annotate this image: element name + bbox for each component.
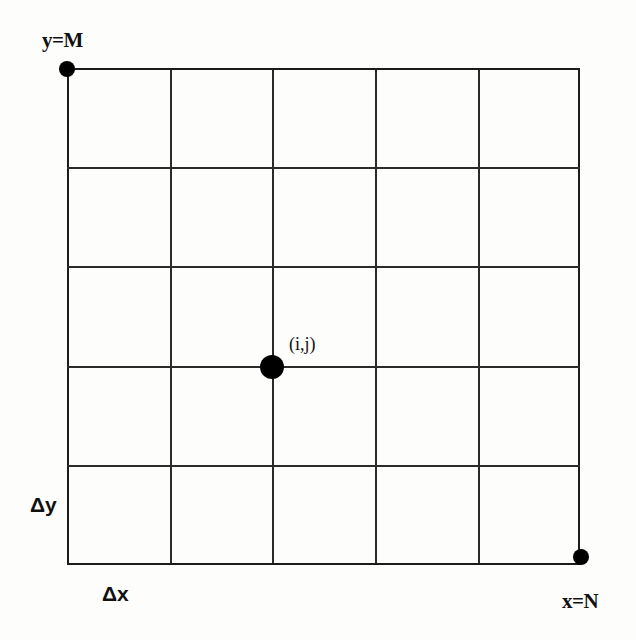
- grid-vertical-line-0: [67, 68, 69, 565]
- computational-grid: [67, 68, 580, 565]
- x-max-label: x=N: [562, 591, 598, 612]
- node-dot-top-left: [59, 61, 75, 77]
- grid-vertical-line-5: [578, 68, 580, 565]
- grid-vertical-line-1: [170, 68, 172, 565]
- delta-x-label: Δx: [102, 583, 129, 604]
- y-max-label: y=M: [42, 30, 83, 51]
- node-index-label: (i,j): [289, 335, 316, 353]
- grid-vertical-line-4: [478, 68, 480, 565]
- node-dot-interior: [260, 355, 284, 379]
- grid-horizontal-line-3: [67, 366, 580, 368]
- grid-horizontal-line-4: [67, 465, 580, 467]
- grid-horizontal-line-5: [67, 563, 580, 565]
- node-dot-bottom-right: [573, 549, 589, 565]
- grid-vertical-line-2: [272, 68, 274, 565]
- grid-horizontal-line-2: [67, 266, 580, 268]
- delta-y-label: Δy: [30, 494, 57, 515]
- figure-canvas: y=M (i,j) Δy Δx x=N: [0, 0, 636, 640]
- grid-vertical-line-3: [375, 68, 377, 565]
- grid-horizontal-line-0: [67, 68, 580, 70]
- grid-horizontal-line-1: [67, 167, 580, 169]
